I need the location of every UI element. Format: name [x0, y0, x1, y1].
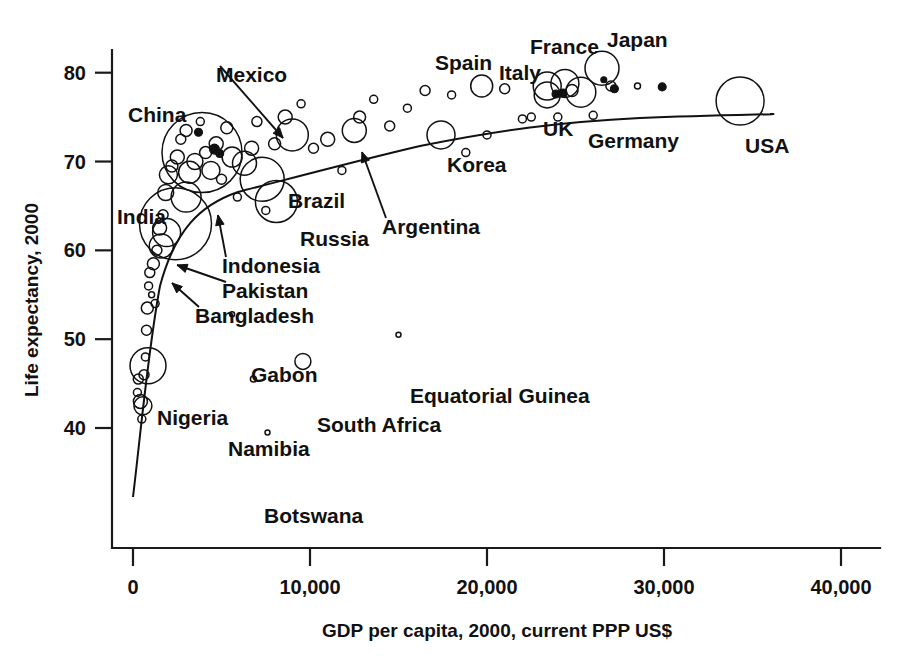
point-label-argentina: Argentina: [382, 215, 480, 238]
data-point-bubble: [233, 193, 241, 201]
y-tick-label: 60: [64, 239, 86, 261]
data-point-bubble: [527, 113, 535, 121]
data-point-filled: [216, 150, 224, 158]
point-labels: ChinaIndiaIndonesiaPakistanBangladeshMex…: [117, 28, 789, 527]
data-point-bubble: [252, 117, 262, 127]
data-point-bubble: [217, 174, 227, 184]
point-label-germany: Germany: [588, 129, 679, 152]
y-tick-label: 70: [64, 151, 86, 173]
data-point-filled: [610, 85, 618, 93]
point-label-nigeria: Nigeria: [157, 406, 229, 429]
data-point-bubble: [278, 110, 292, 124]
data-point-bubble: [262, 206, 270, 214]
point-label-italy: Italy: [499, 61, 541, 84]
data-point-bubble: [297, 100, 305, 108]
point-label-france: France: [530, 35, 599, 58]
data-point-bubble: [149, 292, 155, 298]
x-axis-title: GDP per capita, 2000, current PPP US$: [322, 620, 672, 641]
point-label-indonesia: Indonesia: [222, 254, 320, 277]
data-point-filled: [601, 77, 607, 83]
data-point-bubble: [385, 121, 395, 131]
data-point-bubble-germany: [566, 77, 596, 107]
point-label-uk: UK: [543, 117, 573, 140]
x-axis-ticks: 010,00020,00030,00040,000: [127, 548, 871, 598]
data-point-bubble-indonesia: [171, 182, 201, 212]
data-point-bubble: [179, 161, 201, 183]
data-point-bubble: [518, 115, 526, 123]
point-label-botswana: Botswana: [264, 504, 364, 527]
x-tick-label: 20,000: [456, 576, 517, 598]
point-label-usa: USA: [745, 134, 789, 157]
data-point-bubble: [635, 83, 641, 89]
data-point-bubble: [354, 111, 366, 123]
x-tick-label: 10,000: [279, 576, 340, 598]
data-points: [130, 51, 764, 435]
data-point-filled: [195, 128, 203, 136]
data-point-bubble-usa: [716, 77, 764, 125]
y-axis-ticks: 4050607080: [64, 62, 112, 439]
data-point-bubble: [403, 104, 411, 112]
y-tick-label: 40: [64, 417, 86, 439]
point-label-japan: Japan: [607, 28, 668, 51]
point-label-china: China: [128, 103, 187, 126]
data-point-bubble: [309, 143, 319, 153]
point-label-namibia: Namibia: [228, 437, 310, 460]
point-label-brazil: Brazil: [288, 189, 345, 212]
data-point-filled: [559, 89, 567, 97]
data-point-bubble: [147, 258, 159, 270]
data-point-bubble: [448, 91, 456, 99]
data-point-bubble: [370, 95, 378, 103]
data-point-bubble: [221, 122, 233, 134]
data-point-bubble: [500, 84, 510, 94]
data-point-bubble: [420, 86, 430, 96]
leader-arrowhead: [216, 215, 224, 226]
y-tick-label: 80: [64, 62, 86, 84]
point-label-bangladesh: Bangladesh: [195, 304, 314, 327]
y-axis-title: Life expectancy, 2000: [21, 203, 42, 397]
scatter-plot-svg: 010,00020,00030,00040,000 4050607080 Chi…: [0, 0, 919, 666]
leader-arrowhead: [177, 264, 188, 272]
point-label-russia: Russia: [300, 227, 369, 250]
data-point-bubble: [338, 166, 346, 174]
point-label-south-africa: South Africa: [317, 413, 441, 436]
data-point-bubble-argentina: [342, 118, 366, 142]
data-point-bubble: [589, 111, 597, 119]
data-point-bubble-botswana: [265, 430, 270, 435]
point-label-korea: Korea: [447, 153, 507, 176]
data-point-bubble: [321, 132, 335, 146]
data-point-bubble-equatorial-guinea: [396, 332, 401, 337]
x-tick-label: 30,000: [633, 576, 694, 598]
point-label-mexico: Mexico: [216, 63, 287, 86]
y-tick-label: 50: [64, 328, 86, 350]
x-tick-label: 0: [127, 576, 138, 598]
point-label-equatorial-guinea: Equatorial Guinea: [410, 384, 590, 407]
data-point-bubble: [196, 118, 204, 126]
point-label-pakistan: Pakistan: [222, 279, 308, 302]
point-label-spain: Spain: [435, 51, 492, 74]
leader-arrowhead: [361, 152, 369, 163]
data-point-bubble: [145, 282, 153, 290]
data-point-bubble-spain: [471, 75, 493, 97]
point-label-india: India: [117, 205, 166, 228]
point-label-gabon: Gabon: [251, 363, 318, 386]
data-point-bubble: [180, 124, 192, 136]
axes: 010,00020,00030,00040,000 4050607080: [64, 50, 880, 598]
chart-figure: 010,00020,00030,00040,000 4050607080 Chi…: [0, 0, 919, 666]
x-tick-label: 40,000: [810, 576, 871, 598]
data-point-filled: [658, 83, 666, 91]
data-point-bubble-brazil: [240, 157, 284, 201]
data-point-bubble: [142, 325, 152, 335]
